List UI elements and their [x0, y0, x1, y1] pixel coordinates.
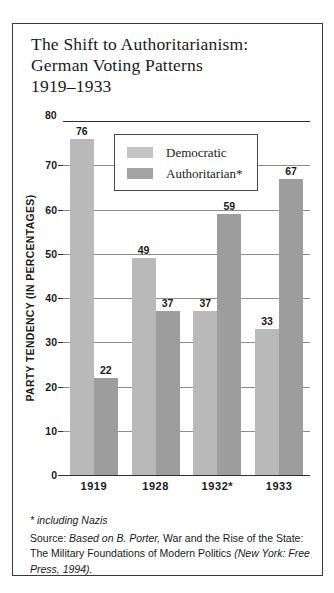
bar-democratic-1932: 37	[193, 311, 217, 475]
bar-value-label: 22	[100, 364, 112, 376]
footnote-including-nazis: * including Nazis	[30, 513, 312, 529]
x-tick-label-1928: 1928	[142, 480, 169, 492]
x-tick-label-1919: 1919	[80, 480, 107, 492]
y-tick-label-30: 30	[45, 336, 57, 348]
chart-notes: * including Nazis Source: Based on B. Po…	[30, 513, 312, 577]
bar-value-label: 59	[224, 200, 236, 212]
y-tick-mark-30	[58, 342, 63, 343]
gridline-80	[63, 121, 310, 122]
legend-label-democratic: Democratic	[166, 145, 227, 161]
y-axis-title-label: PARTY TENDENCY (IN PERCENTAGES)	[24, 195, 36, 402]
legend-swatch-authoritarian	[127, 168, 153, 179]
bar-democratic-1928: 49	[132, 258, 156, 475]
y-tick-mark-50	[58, 254, 63, 255]
y-tick-mark-10	[58, 431, 63, 432]
x-tick-label-1932: 1932*	[201, 480, 233, 492]
gridline-0	[63, 475, 310, 476]
bar-authoritarian-1919: 22	[94, 378, 118, 475]
source-label: Source:	[30, 532, 69, 544]
plot-area: PARTY TENDENCY (IN PERCENTAGES) 01020304…	[13, 24, 324, 577]
bar-democratic-1933: 33	[255, 329, 279, 475]
y-tick-label-80: 80	[45, 109, 57, 121]
y-axis-title: PARTY TENDENCY (IN PERCENTAGES)	[23, 121, 37, 475]
y-tick-mark-20	[58, 387, 63, 388]
bar-democratic-1919: 76	[70, 139, 94, 475]
chart-legend: Democratic Authoritarian*	[114, 134, 258, 191]
bar-value-label: 33	[261, 315, 273, 327]
bar-authoritarian-1933: 67	[279, 179, 303, 475]
bar-value-label: 76	[76, 125, 88, 137]
bar-value-label: 37	[200, 297, 212, 309]
y-tick-label-50: 50	[45, 248, 57, 260]
bar-value-label: 67	[285, 165, 297, 177]
source-citation: Source: Based on B. Porter, War and the …	[30, 531, 312, 578]
y-tick-label-10: 10	[45, 425, 57, 437]
legend-swatch-democratic	[127, 147, 153, 158]
y-tick-mark-70	[58, 165, 63, 166]
y-tick-label-20: 20	[45, 381, 57, 393]
bar-authoritarian-1928: 37	[156, 311, 180, 475]
y-tick-label-70: 70	[45, 159, 57, 171]
x-tick-label-1933: 1933	[266, 480, 293, 492]
chart-figure: The Shift to Authoritarianism: German Vo…	[12, 23, 323, 576]
y-tick-label-60: 60	[45, 204, 57, 216]
gridline-60	[63, 210, 310, 211]
source-author: Based on B. Porter,	[69, 532, 160, 544]
legend-item-democratic: Democratic	[127, 142, 257, 163]
y-tick-label-0: 0	[51, 469, 57, 481]
y-tick-mark-40	[58, 298, 63, 299]
y-tick-label-40: 40	[45, 292, 57, 304]
legend-label-authoritarian: Authoritarian*	[166, 166, 243, 182]
bar-authoritarian-1932: 59	[217, 214, 241, 475]
y-tick-mark-0	[58, 475, 63, 476]
bar-value-label: 37	[162, 297, 174, 309]
bar-value-label: 49	[138, 244, 150, 256]
legend-item-authoritarian: Authoritarian*	[127, 163, 257, 184]
gridline-50	[63, 254, 310, 255]
y-tick-mark-60	[58, 210, 63, 211]
gridline-40	[63, 298, 310, 299]
